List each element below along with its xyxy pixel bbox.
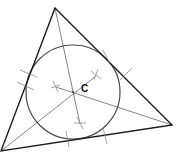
center-point — [72, 91, 74, 93]
triangle — [1, 8, 172, 151]
bisector-top — [55, 8, 80, 124]
incircle-diagram: C — [0, 0, 178, 157]
center-label: C — [81, 83, 88, 94]
